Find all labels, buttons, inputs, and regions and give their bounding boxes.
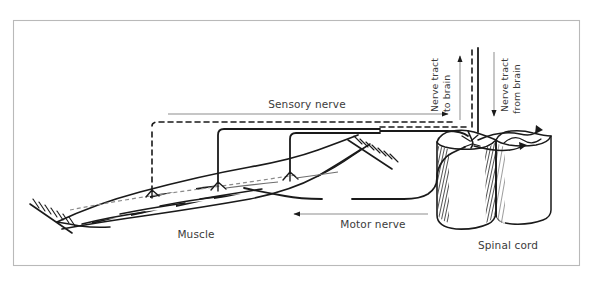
motor-nerve-label: Motor nerve	[340, 218, 405, 230]
nerve-branch-1-terminal	[211, 182, 226, 191]
main-nerve-trunk-to-cord	[447, 131, 468, 136]
spinal-cord-label: Spinal cord	[478, 239, 538, 251]
spinal-cord-surface-detail	[504, 138, 541, 143]
sensory-pathway	[146, 48, 472, 198]
nerve-tract-to-brain-label-line2: to brain	[441, 75, 452, 112]
nerve-tract-from-brain-label-line1: Nerve tract	[499, 58, 510, 112]
figure-border	[14, 21, 580, 266]
muscle-fibres	[82, 189, 262, 224]
muscle-left-attachment-hatch	[33, 199, 75, 226]
spinal-nerve-root-right-arrowhead	[535, 125, 543, 134]
spinal-cord-shading-right	[497, 143, 505, 224]
motor-root-from-cord	[404, 147, 465, 199]
spinal-cord-shading-mid	[485, 143, 495, 223]
spinal-cord-shading-left	[438, 146, 449, 223]
sensory-nerve-label: Sensory nerve	[268, 98, 346, 110]
spinal-cord-illustration	[437, 125, 551, 229]
motor-end-plates	[226, 172, 338, 188]
sensory-dashed-top	[152, 122, 455, 126]
nerve-tract-from-brain-label-line2: from brain	[511, 64, 522, 114]
nerve-tract-to-brain-label-line1: Nerve tract	[429, 58, 440, 112]
nerve-branch-2-terminal	[283, 172, 298, 181]
figure-root: Sensory nerve Motor nerve Muscle Spinal …	[0, 0, 593, 284]
muscle-label: Muscle	[177, 228, 214, 240]
reflex-arc-diagram: Sensory nerve Motor nerve Muscle Spinal …	[0, 0, 593, 284]
